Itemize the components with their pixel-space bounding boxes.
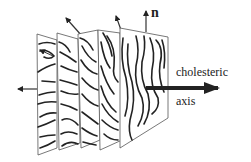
axis-label-line1: cholesteric [176,65,228,80]
layer-plane-3 [78,30,100,148]
cholesteric-diagram: n cholesteric axis [0,0,251,162]
axis-label-line2: axis [176,94,195,109]
diagram-graphic [0,0,251,162]
director-label: n [151,5,159,21]
layer-plane-1 [37,34,57,155]
layer-plane-2 [57,33,80,150]
layer-plane-4 [98,30,122,150]
